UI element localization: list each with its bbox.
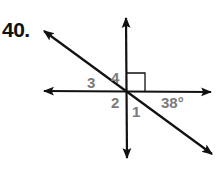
right-angle-marker — [127, 73, 145, 91]
vertical-line — [126, 18, 127, 158]
angle-label-4: 4 — [111, 69, 120, 86]
angle-label-3: 3 — [87, 74, 95, 91]
intersecting-lines-diagram: 4 3 2 1 38° — [0, 0, 222, 172]
angle-label-2: 2 — [111, 94, 119, 111]
given-angle-label: 38° — [161, 94, 184, 111]
angle-label-1: 1 — [132, 103, 140, 120]
